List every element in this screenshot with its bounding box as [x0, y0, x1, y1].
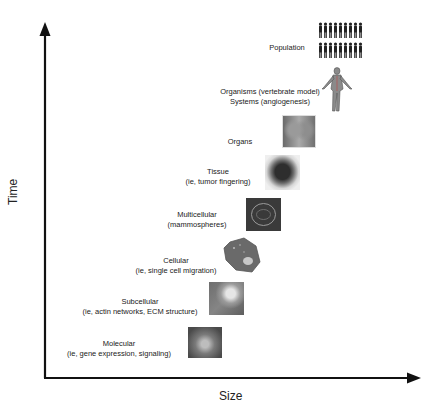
level-label-tissue: Tissue (ie, tumor fingering): [185, 167, 250, 186]
level-subtitle: (ie, single cell migration): [136, 266, 217, 276]
level-title: Cellular: [136, 256, 217, 266]
cell-image-icon: [222, 236, 262, 274]
level-subtitle: Systems (angiogenesis): [220, 97, 320, 107]
x-axis-arrowhead-icon: [407, 373, 421, 384]
level-subtitle: (ie, tumor fingering): [185, 177, 250, 187]
level-title: Organs: [228, 137, 253, 147]
level-title: Molecular: [67, 339, 171, 349]
level-title: Subcellular: [82, 297, 197, 307]
level-title: Organisms (vertebrate model): [220, 87, 320, 97]
level-subtitle: (mammospheres): [168, 220, 227, 230]
mammosphere-image-icon: [246, 198, 281, 231]
y-axis-arrowhead-icon: [40, 22, 51, 36]
molecular-image-icon: [188, 327, 222, 358]
level-title: Multicellular: [168, 210, 227, 220]
mammosphere-outline-icon: [246, 198, 281, 231]
organ-image-icon: [282, 115, 316, 148]
level-subtitle: (ie, actin networks, ECM structure): [82, 307, 197, 317]
subcellular-image-icon: [209, 282, 244, 315]
human-figure-icon: [320, 67, 354, 115]
level-label-organisms: Organisms (vertebrate model) Systems (an…: [220, 87, 320, 106]
level-label-multicellular: Multicellular (mammospheres): [168, 210, 227, 229]
level-label-population: Population: [269, 43, 304, 53]
level-label-molecular: Molecular (ie, gene expression, signalin…: [67, 339, 171, 358]
level-label-cellular: Cellular (ie, single cell migration): [136, 256, 217, 275]
population-icon: [318, 22, 364, 60]
level-title: Tissue: [185, 167, 250, 177]
level-subtitle: (ie, gene expression, signaling): [67, 349, 171, 359]
level-label-organs: Organs: [228, 137, 253, 147]
level-label-subcellular: Subcellular (ie, actin networks, ECM str…: [82, 297, 197, 316]
y-axis-label: Time: [6, 179, 20, 205]
level-title: Population: [269, 43, 304, 53]
x-axis-label: Size: [219, 389, 242, 403]
tissue-image-icon: [265, 155, 300, 190]
